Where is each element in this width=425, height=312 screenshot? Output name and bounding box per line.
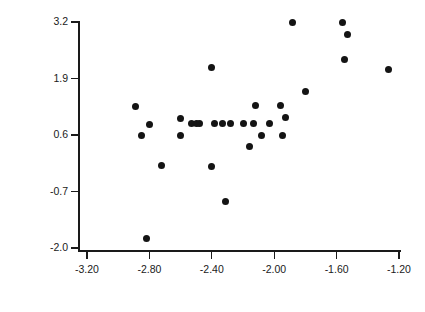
data-point (341, 56, 348, 63)
x-axis-tick-label: -2.00 (254, 263, 294, 275)
data-point (158, 162, 165, 169)
data-point (339, 19, 346, 26)
data-point (289, 19, 296, 26)
y-axis-tick (71, 191, 78, 192)
data-point (208, 64, 215, 71)
y-axis-tick-label: 1.9 (38, 73, 68, 84)
x-axis-tick (86, 252, 87, 259)
y-axis-tick (71, 134, 78, 135)
x-axis-tick (274, 252, 275, 259)
x-axis-tick (149, 252, 150, 259)
data-point (177, 115, 184, 122)
data-point (208, 163, 215, 170)
x-axis-line (78, 250, 401, 252)
y-axis-title: Output per establishment (m/e) (natural … (0, 0, 19, 20)
data-point (193, 120, 200, 127)
x-axis-tick-label: -2.40 (192, 263, 232, 275)
x-axis-tick-label: -1.20 (379, 263, 419, 275)
x-axis-tick-label: -1.60 (317, 263, 357, 275)
data-point (143, 235, 150, 242)
y-axis-tick-label: 0.6 (38, 129, 68, 140)
data-point (177, 132, 184, 139)
data-point (222, 198, 229, 205)
data-point (258, 132, 265, 139)
data-point (132, 103, 139, 110)
y-axis-title-container: Output per establishment (m/e) (natural … (0, 0, 26, 290)
data-point (240, 120, 247, 127)
data-point (227, 120, 234, 127)
data-point (246, 143, 253, 150)
x-axis-tick (211, 252, 212, 259)
data-point (211, 120, 218, 127)
data-point (282, 114, 289, 121)
data-point (302, 88, 309, 95)
data-point (146, 121, 153, 128)
data-point (277, 102, 284, 109)
y-axis-tick-label: 3.2 (38, 16, 68, 27)
x-axis-tick-label: -3.20 (67, 263, 107, 275)
data-point (344, 31, 351, 38)
y-axis-tick (71, 247, 78, 248)
y-axis-tick-label: -2.0 (38, 242, 68, 253)
x-axis-tick (336, 252, 337, 259)
data-point (138, 132, 145, 139)
data-point (279, 132, 286, 139)
data-point (385, 66, 392, 73)
data-point (250, 120, 257, 127)
data-point (219, 120, 226, 127)
x-axis-tick (398, 252, 399, 259)
y-axis-tick-label: -0.7 (38, 186, 68, 197)
x-axis-tick-label: -2.80 (129, 263, 169, 275)
data-point (188, 120, 195, 127)
y-axis-tick (71, 78, 78, 79)
y-axis-tick (71, 21, 78, 22)
data-point (266, 120, 273, 127)
scatter-plot-figure: Output per establishment (m/e) (natural … (0, 0, 425, 312)
data-point (252, 102, 259, 109)
data-point (196, 120, 203, 127)
y-axis-line (78, 21, 80, 251)
